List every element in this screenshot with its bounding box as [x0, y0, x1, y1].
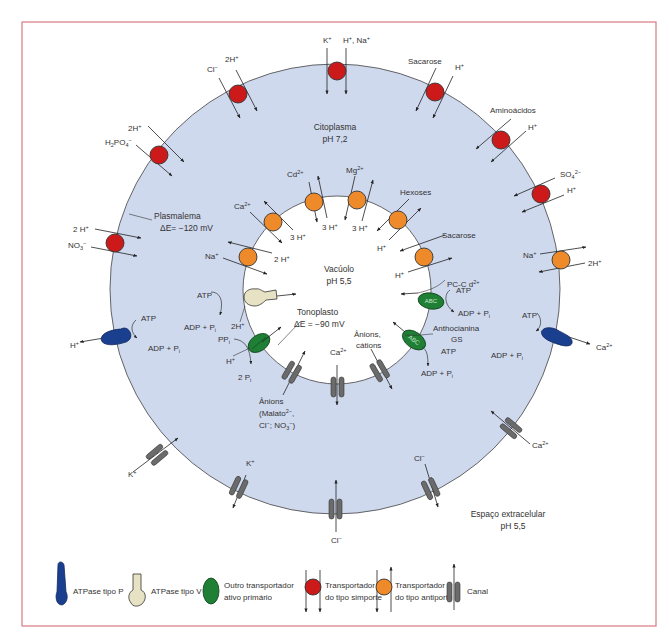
svg-text:H2PO4−: H2PO4−	[105, 137, 132, 148]
svg-text:H+: H+	[70, 340, 79, 350]
svg-text:Hexoses: Hexoses	[400, 188, 431, 197]
svg-text:Transportador: Transportador	[395, 581, 445, 590]
cytoplasm-label: Citoplasma	[314, 122, 357, 132]
channel-k-left: K+	[128, 438, 178, 479]
svg-text:Ânions: Ânions	[259, 397, 283, 406]
svg-text:ATP: ATP	[522, 311, 537, 320]
svg-text:K+: K+	[323, 35, 332, 45]
svg-text:ATP: ATP	[197, 291, 212, 300]
svg-text:cátions: cátions	[356, 341, 381, 350]
svg-text:2 Pi: 2 Pi	[238, 373, 251, 383]
extracellular-label: Espaço extracelular	[471, 509, 546, 519]
svg-text:Sacarose: Sacarose	[408, 57, 442, 66]
svg-text:2H+: 2H+	[225, 54, 238, 64]
vacuole-ph: pH 5,5	[326, 276, 351, 286]
svg-text:H+: H+	[528, 122, 537, 132]
svg-text:ativo primário: ativo primário	[224, 593, 273, 602]
svg-text:2 H+: 2 H+	[73, 224, 89, 234]
cytoplasm-ph: pH 7,2	[322, 134, 347, 144]
legend-symport: Transportador do tipo simporte	[305, 570, 382, 612]
svg-text:ADP + Pi: ADP + Pi	[148, 344, 180, 354]
svg-text:2H+: 2H+	[588, 258, 601, 268]
svg-text:Ânions,: Ânions,	[354, 330, 381, 339]
legend: ATPase tipo P ATPase tipo V Outro transp…	[56, 562, 488, 612]
svg-text:ATP: ATP	[441, 347, 456, 356]
extracellular-ph: pH 5,5	[500, 521, 525, 531]
svg-text:ATPase tipo P: ATPase tipo P	[73, 587, 124, 596]
svg-text:GS: GS	[451, 335, 463, 344]
tonoplast-label: Tonoplasto	[297, 307, 338, 317]
svg-text:Outro transportador: Outro transportador	[224, 581, 294, 590]
svg-text:ATPase tipo V: ATPase tipo V	[151, 587, 202, 596]
svg-text:Cl−: Cl−	[207, 64, 218, 74]
svg-text:Canal: Canal	[467, 587, 488, 596]
svg-text:do tipo simporte: do tipo simporte	[325, 593, 382, 602]
plant-cell-transport-diagram: Citoplasma pH 7,2 Vacúolo pH 5,5 Espaço …	[0, 0, 669, 639]
legend-p-atpase: ATPase tipo P	[56, 562, 123, 605]
svg-text:ADP + Pi: ADP + Pi	[458, 309, 490, 319]
svg-text:ATP: ATP	[456, 286, 471, 295]
legend-channel: Canal	[447, 564, 488, 610]
svg-text:PPi: PPi	[218, 335, 230, 345]
tonoplast-potential: ΔE = −90 mV	[294, 319, 345, 329]
svg-text:Ca2+: Ca2+	[596, 342, 613, 352]
svg-text:SO42−: SO42−	[560, 169, 581, 180]
svg-text:Aminoácidos: Aminoácidos	[490, 106, 536, 115]
svg-text:Transportador: Transportador	[325, 581, 375, 590]
svg-text:Ca2+: Ca2+	[532, 440, 549, 450]
legend-antiport: Transportador do tipo antiporte	[376, 567, 453, 612]
plasmalemma-potential: ΔE= −120 mV	[160, 223, 213, 233]
svg-text:H+: H+	[455, 62, 464, 72]
svg-text:ADP + Pi: ADP + Pi	[184, 323, 216, 333]
svg-text:Anthocianina: Anthocianina	[433, 324, 480, 333]
legend-other-primary: Outro transportador ativo primário	[203, 578, 294, 604]
svg-text:ATP: ATP	[141, 314, 156, 323]
svg-text:H+, Na+: H+, Na+	[343, 35, 370, 45]
svg-text:do tipo antiporte: do tipo antiporte	[395, 593, 453, 602]
vacuole-label: Vacúolo	[324, 264, 354, 274]
svg-text:NO3−: NO3−	[68, 240, 86, 251]
svg-text:ABC: ABC	[425, 298, 438, 304]
svg-text:2H+: 2H+	[128, 123, 141, 133]
svg-text:K+: K+	[128, 469, 137, 479]
legend-v-atpase: ATPase tipo V	[129, 574, 202, 606]
svg-text:Sacarose: Sacarose	[442, 231, 476, 240]
plasmalemma-label: Plasmalema	[154, 211, 201, 221]
svg-text:Cl−: Cl−	[331, 535, 342, 545]
svg-text:H+: H+	[567, 185, 576, 195]
svg-text:ADP + Pi: ADP + Pi	[491, 351, 523, 361]
svg-text:ADP + Pi: ADP + Pi	[421, 369, 453, 379]
